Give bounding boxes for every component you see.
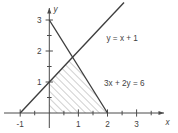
y-tick-label-2: 2 (37, 47, 42, 56)
x-tick-label-2: 2 (105, 120, 110, 129)
y-axis-label: y (52, 5, 58, 14)
x-axis-label: x (164, 118, 170, 127)
x-tick-label-3: 3 (134, 120, 139, 129)
x-tick-label-1: 1 (76, 120, 81, 129)
graph-figure: 3 2 1 -1 1 2 3 y x y = x + 1 3x + 2y = 6 (0, 0, 178, 133)
y-tick-label-3: 3 (37, 16, 42, 25)
coordinate-plot: 3 2 1 -1 1 2 3 y x y = x + 1 3x + 2y = 6 (0, 0, 178, 133)
y-axis-arrow-icon (47, 8, 51, 14)
x-axis-arrow-icon (159, 111, 165, 115)
x-tick-label-neg1: -1 (17, 120, 25, 129)
annotation-line-y-equals-x-plus-1: y = x + 1 (107, 34, 139, 43)
annotation-line-3x-plus-2y-equals-6: 3x + 2y = 6 (104, 79, 145, 88)
y-tick-label-1: 1 (37, 78, 42, 87)
